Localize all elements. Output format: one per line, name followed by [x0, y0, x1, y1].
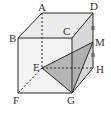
label-G: G [67, 94, 75, 106]
label-A: A [38, 1, 46, 13]
label-H: H [96, 63, 104, 75]
label-F: F [13, 94, 19, 106]
cube-diagram: A D B C M E H F G [0, 0, 111, 116]
label-M: M [95, 36, 105, 48]
label-D: D [90, 0, 98, 12]
label-B: B [9, 32, 16, 44]
label-C: C [63, 25, 70, 37]
label-E: E [33, 61, 40, 73]
